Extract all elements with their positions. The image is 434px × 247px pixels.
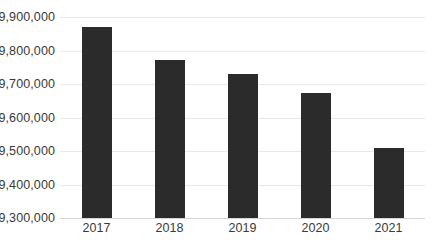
- x-tick-label: 2018: [155, 221, 183, 235]
- bars-layer: [60, 17, 425, 218]
- y-tick-label: 9,600,000: [0, 111, 55, 125]
- bar: [155, 60, 185, 218]
- bar: [374, 148, 404, 218]
- y-tick-label: 9,900,000: [0, 10, 55, 24]
- y-tick-label: 9,700,000: [0, 77, 55, 91]
- bar: [82, 27, 112, 218]
- y-tick-label: 9,800,000: [0, 44, 55, 58]
- y-tick-label: 9,400,000: [0, 178, 55, 192]
- y-axis: 9,300,0009,400,0009,500,0009,600,0009,70…: [0, 0, 58, 247]
- y-tick-label: 9,500,000: [0, 144, 55, 158]
- bar: [301, 93, 331, 218]
- x-tick-label: 2020: [301, 221, 329, 235]
- bar: [228, 74, 258, 218]
- x-tick-label: 2019: [228, 221, 256, 235]
- gridline: [60, 218, 425, 219]
- y-tick-label: 9,300,000: [0, 211, 55, 225]
- bar-chart: 9,300,0009,400,0009,500,0009,600,0009,70…: [0, 0, 434, 247]
- x-tick-label: 2017: [82, 221, 110, 235]
- x-axis: 20172018201920202021: [60, 220, 425, 244]
- x-tick-label: 2021: [374, 221, 402, 235]
- plot-area: [60, 17, 425, 218]
